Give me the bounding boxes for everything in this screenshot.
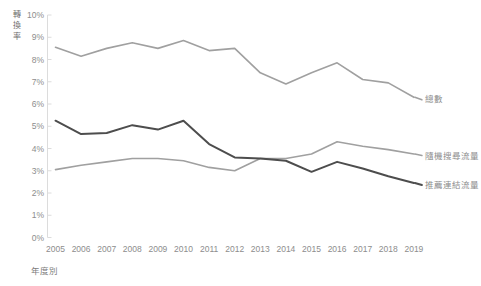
x-tick-label: 2019 — [404, 244, 423, 254]
y-tick-label: 1% — [32, 210, 45, 220]
x-tick-label: 2007 — [97, 244, 116, 254]
legend-label-2: 推薦連結流量 — [425, 180, 479, 190]
legend-label-0: 總數 — [425, 94, 443, 104]
y-tick-label: 10% — [27, 10, 44, 20]
y-tick-label: 2% — [32, 188, 45, 198]
data-series-group — [56, 41, 414, 183]
x-tick-label: 2005 — [46, 244, 65, 254]
y-axis-title-char: 率 — [13, 31, 21, 41]
x-tick-label: 2010 — [174, 244, 193, 254]
y-axis-title-char: 換 — [13, 20, 21, 30]
chart-plot-area: 0%1%2%3%4%5%6%7%8%9%10% 2005200620072008… — [0, 0, 481, 286]
x-tick-label: 2017 — [353, 244, 372, 254]
x-tick-label: 2016 — [328, 244, 347, 254]
y-axis-title-char: 轉 — [13, 9, 21, 19]
y-tick-label: 5% — [32, 121, 45, 131]
x-tick-label: 2006 — [72, 244, 91, 254]
series-line-2 — [56, 121, 414, 183]
conversion-rate-line-chart: 0%1%2%3%4%5%6%7%8%9%10% 2005200620072008… — [0, 0, 481, 286]
x-tick-label: 2012 — [225, 244, 244, 254]
chart-legend: 總數隨機搜尋流量推薦連結流量 — [415, 94, 479, 190]
y-tick-label: 7% — [32, 77, 45, 87]
y-tick-label: 3% — [32, 166, 45, 176]
x-tick-label: 2008 — [123, 244, 142, 254]
legend-swatch-2 — [415, 183, 422, 185]
y-tick-label: 6% — [32, 99, 45, 109]
x-tick-label: 2011 — [200, 244, 219, 254]
series-line-0 — [56, 41, 414, 98]
x-tick-label: 2018 — [379, 244, 398, 254]
legend-swatch-0 — [415, 97, 422, 100]
y-tick-label: 8% — [32, 55, 45, 65]
x-tick-label: 2013 — [251, 244, 270, 254]
x-tick-label: 2014 — [276, 244, 295, 254]
x-axis-ticks: 2005200620072008200920102011201220132014… — [46, 244, 424, 254]
x-tick-label: 2009 — [148, 244, 167, 254]
y-tick-label: 4% — [32, 144, 45, 154]
y-axis-title: 轉換率 — [13, 9, 21, 41]
y-tick-label: 9% — [32, 32, 45, 42]
y-tick-label: 0% — [32, 233, 45, 243]
legend-swatch-1 — [415, 154, 422, 156]
legend-label-1: 隨機搜尋流量 — [425, 151, 479, 161]
x-tick-label: 2015 — [302, 244, 321, 254]
x-axis-title-label: 年度別 — [31, 266, 58, 276]
